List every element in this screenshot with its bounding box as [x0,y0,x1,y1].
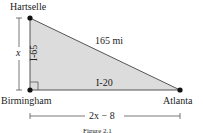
vertex-dot-atlanta [177,87,182,92]
hypotenuse-length-label: 165 mi [95,36,123,46]
figure-caption: Figure 2.1 [83,128,112,133]
side-length-label-horizontal: 2x − 8 [89,111,115,121]
road-label-i65: I-65 [29,45,39,62]
vertex-dot-birmingham [27,87,32,92]
side-length-label-vertical: x [16,48,20,58]
road-label-i20: I-20 [96,78,113,88]
vertex-label-atlanta: Atlanta [163,96,192,106]
right-triangle-figure: Hartselle Birmingham Atlanta x I-65 165 … [0,0,203,133]
vertex-label-birmingham: Birmingham [1,96,52,106]
vertex-dot-hartselle [27,15,32,20]
vertex-label-hartselle: Hartselle [10,2,46,12]
